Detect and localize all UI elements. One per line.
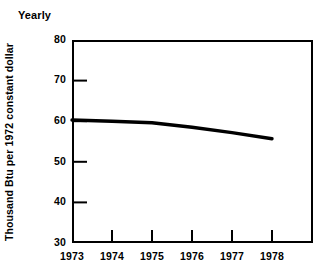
y-tick-marks: [73, 81, 87, 203]
x-tick-label-1978: 1978: [252, 250, 292, 262]
x-tick-marks: [112, 230, 272, 242]
plot-svg: [72, 40, 313, 243]
y-tick-label-40: 40: [38, 196, 66, 207]
y-tick-label-30: 30: [38, 237, 66, 248]
y-tick-label-70: 70: [38, 74, 66, 85]
x-tick-label-1977: 1977: [212, 250, 252, 262]
data-line-energy-intensity: [72, 120, 272, 139]
x-tick-label-1976: 1976: [172, 250, 212, 262]
x-tick-label-1974: 1974: [92, 250, 132, 262]
y-axis-label-container: Thousand Btu per 1972 constant dollar: [0, 40, 18, 243]
y-axis-label: Thousand Btu per 1972 constant dollar: [3, 43, 15, 241]
y-tick-label-50: 50: [38, 156, 66, 167]
y-tick-label-60: 60: [38, 115, 66, 126]
y-tick-label-80: 80: [38, 34, 66, 45]
x-tick-label-1973: 1973: [52, 250, 92, 262]
chart-container: Yearly Thousand Btu per 1972 constant do…: [0, 0, 328, 277]
chart-title: Yearly: [18, 9, 51, 22]
x-tick-label-1975: 1975: [132, 250, 172, 262]
